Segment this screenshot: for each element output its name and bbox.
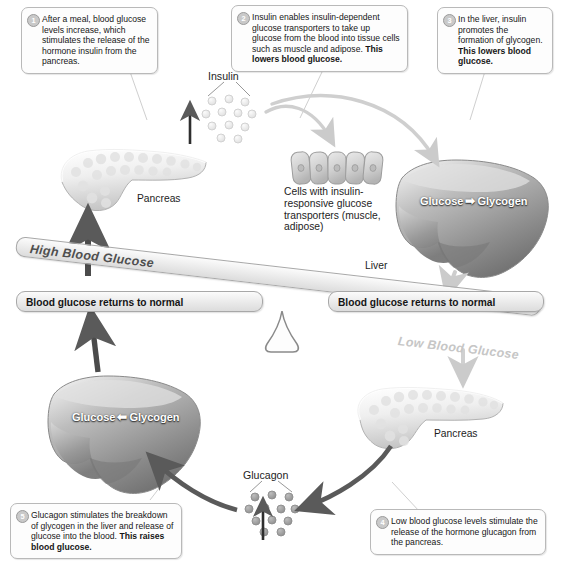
liver-top-reaction-right: Glycogen <box>477 195 527 207</box>
callout-2-number: 2 <box>237 12 250 25</box>
arrow-pancreas-to-glucagon <box>308 446 391 506</box>
liver-bottom-illustration <box>48 376 200 493</box>
callout-1-regular: After a meal, blood glucose levels incre… <box>42 14 149 66</box>
callout-4: 4 Low blood glucose levels stimulate the… <box>370 509 546 555</box>
pancreas-top-label: Pancreas <box>137 193 181 204</box>
pancreas-top-illustration <box>61 149 206 210</box>
cells-label: Cells with insulin-responsive glucose tr… <box>284 186 404 233</box>
callout-3-text: In the liver, insulin promotes the forma… <box>458 14 543 66</box>
right-arrow-icon: ➡ <box>463 194 477 208</box>
glucagon-leader-lines <box>250 481 292 492</box>
callout-4-regular: Low blood glucose levels stimulate the r… <box>391 516 538 547</box>
callout-5: 5 Glucagon stimulates the breakdown of g… <box>10 503 182 559</box>
callout-3-regular: In the liver, insulin promotes the forma… <box>458 14 543 45</box>
arrow-insulin-to-liver <box>272 96 434 158</box>
callout-3-bold: This lowers blood glucose. <box>458 46 531 67</box>
normal-left-text: Blood glucose returns to normal <box>26 292 183 313</box>
insulin-label: Insulin <box>208 70 239 82</box>
glucagon-granules <box>245 491 299 536</box>
tissue-cells-illustration <box>290 151 383 185</box>
liver-bottom-reaction: Glucose⬅Glycogen <box>72 410 180 424</box>
liver-top-reaction-left: Glucose <box>420 195 463 207</box>
liver-top-illustration <box>396 160 548 277</box>
liver-bottom-reaction-right: Glycogen <box>129 411 179 423</box>
callout-4-text: Low blood glucose levels stimulate the r… <box>391 516 538 547</box>
balance-fulcrum <box>266 311 299 352</box>
left-arrow-icon: ⬅ <box>115 410 129 424</box>
diagram-canvas: High Blood Glucose Low Blood Glucose Blo… <box>0 0 561 581</box>
pancreas-bottom-illustration <box>358 387 503 448</box>
callout-2: 2 Insulin enables insulin-dependent gluc… <box>231 5 408 72</box>
insulin-leader-lines <box>208 82 250 96</box>
callout-1-number: 1 <box>27 14 40 27</box>
liver-top-reaction: Glucose➡Glycogen <box>420 194 528 208</box>
arrow-liver-to-normal-left <box>92 322 98 372</box>
liver-bottom-reaction-left: Glucose <box>72 411 115 423</box>
callout-4-number: 4 <box>376 516 389 529</box>
arrow-insulin-to-cells <box>266 106 330 138</box>
normal-right-text: Blood glucose returns to normal <box>338 292 495 313</box>
callout-3-number: 3 <box>443 14 456 27</box>
insulin-granules <box>202 95 256 143</box>
callout-2-text: Insulin enables insulin-dependent glucos… <box>252 12 400 64</box>
pancreas-bottom-label: Pancreas <box>434 428 478 439</box>
callout-1: 1 After a meal, blood glucose levels inc… <box>21 7 158 74</box>
callout-1-text: After a meal, blood glucose levels incre… <box>42 14 149 66</box>
callout-3: 3 In the liver, insulin promotes the for… <box>437 7 553 74</box>
callout-5-text: Glucagon stimulates the breakdown of gly… <box>31 510 173 552</box>
liver-label: Liver <box>365 260 387 271</box>
normal-bar-left: Blood glucose returns to normal <box>16 291 263 312</box>
glucagon-label: Glucagon <box>243 469 288 481</box>
callout-5-number: 5 <box>16 510 29 523</box>
normal-bar-right: Blood glucose returns to normal <box>328 291 544 312</box>
